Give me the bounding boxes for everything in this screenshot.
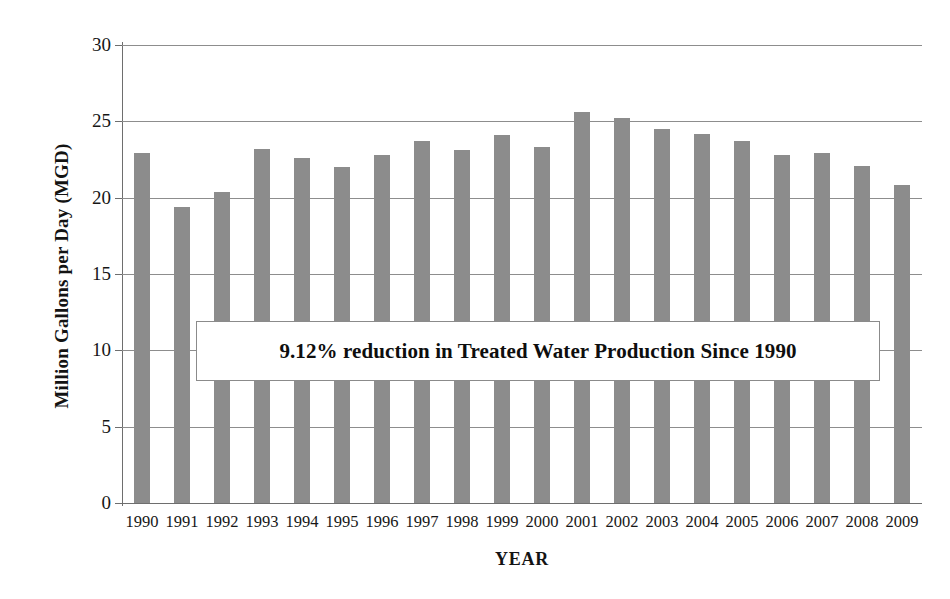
x-tick-label-1996: 1996 [366, 512, 399, 532]
x-tick-label-2000: 2000 [526, 512, 559, 532]
x-tick-label-2009: 2009 [886, 512, 919, 532]
x-axis-tick-labels: 1990199119921993199419951996199719981999… [122, 512, 922, 536]
y-axis-title: Million Gallons per Day (MGD) [51, 46, 73, 506]
x-tick-label-2002: 2002 [606, 512, 639, 532]
plot-area: 051015202530 [122, 45, 922, 503]
y-tick-label-20: 20 [92, 187, 111, 209]
y-tick-20 [115, 198, 122, 199]
gridline-0 [122, 503, 922, 504]
x-tick-label-2003: 2003 [646, 512, 679, 532]
bar-2001 [574, 112, 590, 503]
x-tick-label-2004: 2004 [686, 512, 719, 532]
x-tick-label-1993: 1993 [246, 512, 279, 532]
x-tick-label-2007: 2007 [806, 512, 839, 532]
x-tick-label-1998: 1998 [446, 512, 479, 532]
y-tick-15 [115, 274, 122, 275]
x-tick-label-1997: 1997 [406, 512, 439, 532]
bar-2003 [654, 129, 670, 503]
y-tick-label-30: 30 [92, 34, 111, 56]
y-tick-label-10: 10 [92, 339, 111, 361]
x-tick-label-2005: 2005 [726, 512, 759, 532]
bars-group [122, 45, 922, 503]
bar-2002 [614, 118, 630, 503]
annotation-label: 9.12% reduction in Treated Water Product… [279, 339, 796, 364]
y-tick-label-25: 25 [92, 110, 111, 132]
x-tick-label-1994: 1994 [286, 512, 319, 532]
bar-1990 [134, 153, 150, 503]
y-tick-10 [115, 350, 122, 351]
y-tick-30 [115, 45, 122, 46]
y-tick-label-5: 5 [102, 416, 112, 438]
y-tick-25 [115, 121, 122, 122]
chart-figure: Million Gallons per Day (MGD) 0510152025… [0, 0, 950, 599]
x-tick-label-1999: 1999 [486, 512, 519, 532]
x-tick-label-2006: 2006 [766, 512, 799, 532]
x-tick-label-1992: 1992 [206, 512, 239, 532]
y-tick-label-0: 0 [102, 492, 112, 514]
y-tick-0 [115, 503, 122, 504]
bar-2004 [694, 134, 710, 503]
bar-2009 [894, 185, 910, 503]
x-tick-label-2001: 2001 [566, 512, 599, 532]
bar-1999 [494, 135, 510, 503]
bar-1991 [174, 207, 190, 503]
annotation-text-box: 9.12% reduction in Treated Water Product… [196, 321, 880, 381]
y-tick-label-15: 15 [92, 263, 111, 285]
x-tick-label-1995: 1995 [326, 512, 359, 532]
x-tick-label-2008: 2008 [846, 512, 879, 532]
x-tick-label-1991: 1991 [166, 512, 199, 532]
x-axis-title: YEAR [122, 549, 922, 570]
y-tick-5 [115, 427, 122, 428]
x-tick-label-1990: 1990 [126, 512, 159, 532]
